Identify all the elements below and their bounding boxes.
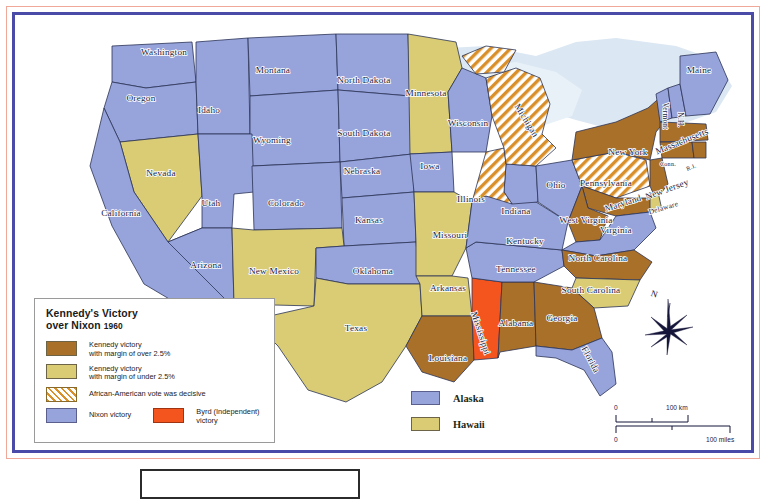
legend-rows: Kennedy victory with margin of over 2.5%…	[46, 341, 264, 426]
state-label-maine: Maine	[687, 65, 712, 75]
below-frame-box	[140, 469, 360, 499]
state-label-california: California	[101, 208, 141, 218]
legend-swatch-kennedy-over	[46, 341, 77, 356]
inset-swatch-alaska	[411, 391, 440, 405]
state-label-ohio: Ohio	[546, 180, 566, 190]
legend-title: Kennedy's Victory over Nixon 1960	[46, 308, 264, 333]
inset-label-hawaii: Hawaii	[453, 419, 485, 430]
legend-swatch-byrd	[153, 408, 184, 423]
inset-label-alaska: Alaska	[453, 393, 484, 404]
scale-miles-max: 100 miles	[706, 436, 734, 443]
compass-rose: N	[637, 291, 701, 361]
state-label-wyoming: Wyoming	[253, 135, 291, 145]
state-label-washington: Washington	[141, 47, 187, 57]
scale-miles-zero: 0	[614, 436, 618, 443]
legend-label-kennedy-over-2: with margin of over 2.5%	[89, 350, 170, 359]
state-label-n-h: N.H.	[676, 112, 685, 127]
state-label-colorado: Colorado	[268, 198, 304, 208]
state-label-south-dakota: South Dakota	[337, 128, 390, 138]
state-label-arkansas: Arkansas	[430, 283, 466, 293]
inset-key-alaska: Alaska	[411, 391, 485, 405]
legend-label-byrd-2: victory	[196, 417, 259, 426]
state-label-minnesota: Minnesota	[405, 88, 446, 98]
state-label-montana: Montana	[256, 65, 290, 75]
state-label-north-carolina: North Carolina	[569, 253, 628, 263]
state-label-wisconsin: Wisconsin	[448, 118, 489, 128]
state-label-georgia: Georgia	[546, 313, 577, 323]
state-label-west-virginia: West Virginia	[559, 215, 612, 225]
state-label-virginia: Virginia	[600, 225, 632, 235]
state-label-idaho: Idaho	[198, 105, 220, 115]
legend-row-nixon-byrd: Nixon victory Byrd (Independent) victory	[46, 408, 264, 426]
legend-item-kennedy-over: Kennedy victory with margin of over 2.5%	[46, 341, 264, 359]
scale-km-labels: 0 100 km	[614, 404, 742, 413]
state-label-south-carolina: South Carolina	[562, 285, 621, 295]
scale-bar-graphic	[614, 413, 742, 435]
state-label-utah: Utah	[202, 198, 221, 208]
state-label-tennessee: Tennessee	[496, 264, 536, 274]
inset-key-hawaii: Hawaii	[411, 417, 485, 431]
legend-title-year: 1960	[104, 321, 123, 331]
state-label-missouri: Missouri	[433, 230, 468, 240]
state-label-arizona: Arizona	[190, 260, 221, 270]
state-label-pennsylvania: Pennsylvania	[580, 178, 632, 188]
state-label-nebraska: Nebraska	[344, 166, 381, 176]
state-label-iowa: Iowa	[420, 161, 439, 171]
compass-star-icon	[637, 291, 701, 361]
scale-miles-labels: 0 100 miles	[614, 436, 742, 445]
state-label-new-mexico: New Mexico	[249, 266, 299, 276]
state-label-kansas: Kansas	[355, 215, 383, 225]
legend-swatch-kennedy-under	[46, 364, 77, 379]
state-label-illinois: Illinois	[457, 194, 485, 204]
inset-state-key: Alaska Hawaii	[411, 391, 485, 443]
scale-km-max: 100 km	[666, 404, 688, 411]
state-label-conn: Conn.	[660, 161, 676, 167]
state-label-nevada: Nevada	[146, 168, 176, 178]
state-label-louisiana: Louisiana	[429, 353, 467, 363]
legend-swatch-hatch	[46, 387, 77, 402]
state-label-texas: Texas	[345, 323, 368, 333]
legend-title-line2: over Nixon	[46, 320, 101, 331]
legend-swatch-nixon	[46, 408, 77, 423]
legend-item-african-american-vote: African-American vote was decisive	[46, 387, 264, 402]
legend-item-kennedy-under: Kennedy victory with margin of under 2.5…	[46, 364, 264, 382]
scale-bar: 0 100 km 0 100 miles	[614, 404, 742, 445]
state-label-oregon: Oregon	[126, 93, 155, 103]
state-label-vermont: Vermont	[661, 102, 670, 130]
state-label-kentucky: Kentucky	[506, 236, 544, 246]
legend-label-hatch: African-American vote was decisive	[89, 390, 206, 399]
state-label-oklahoma: Oklahoma	[353, 266, 393, 276]
legend-title-line1: Kennedy's Victory	[46, 308, 138, 319]
legend-label-kennedy-under-2: with margin of under 2.5%	[89, 373, 175, 382]
inset-swatch-hawaii	[411, 417, 440, 431]
state-label-alabama: Alabama	[499, 318, 534, 328]
map-legend: Kennedy's Victory over Nixon 1960 Kenned…	[34, 298, 275, 443]
legend-item-byrd: Byrd (Independent) victory	[153, 408, 259, 426]
state-label-indiana: Indiana	[501, 206, 530, 216]
state-label-north-dakota: North Dakota	[337, 75, 390, 85]
legend-item-nixon: Nixon victory	[46, 408, 131, 423]
scale-km-zero: 0	[614, 404, 618, 411]
state-label-r-i: R.I.	[685, 162, 697, 171]
state-label-new-york: New York	[608, 147, 647, 157]
legend-label-nixon: Nixon victory	[89, 411, 131, 420]
